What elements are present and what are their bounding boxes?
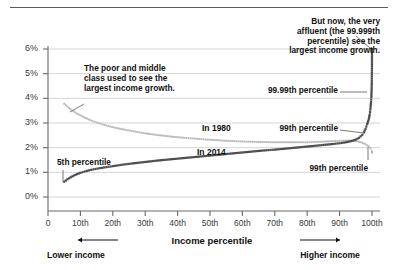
annotation-very-affluent: But now, the very affluent (the 99.999th… [232, 17, 380, 56]
y-tick-label: 5% [12, 68, 38, 79]
x-tick-label: 50th [193, 218, 227, 228]
x-tick-label: 30th [128, 218, 162, 228]
x-axis-ticks [48, 211, 372, 216]
lower-income-label: Lower income [36, 250, 116, 260]
annotation-99th-percentile-upper: 99th percentile [256, 124, 338, 134]
x-tick-label: 10th [63, 218, 97, 228]
x-tick-label: 100th [355, 218, 389, 228]
annotation-poor-middle: The poor and middle class used to see th… [84, 64, 204, 93]
y-tick-label: 3% [12, 117, 38, 128]
x-axis-title: Income percentile [152, 235, 272, 246]
higher-income-label: Higher income [290, 250, 370, 260]
y-tick-label: 6% [12, 43, 38, 54]
y-tick-label: 2% [12, 142, 38, 153]
chart-figure: 0%1%2%3%4%5%6% 010th20th30th40th50th60th… [0, 0, 398, 270]
y-tick-label: 4% [12, 92, 38, 103]
x-tick-label: 20th [96, 218, 130, 228]
y-tick-label: 0% [12, 191, 38, 202]
x-tick-label: 80th [290, 218, 324, 228]
y-tick-label: 1% [12, 166, 38, 177]
annotation-9999th-percentile: 99.99th percentile [243, 86, 338, 96]
series-label-2014: In 2014 [197, 147, 226, 157]
y-axis-ticks [43, 49, 48, 197]
x-tick-label: 90th [323, 218, 357, 228]
x-tick-label: 60th [225, 218, 259, 228]
annotation-5th-percentile: 5th percentile [57, 158, 137, 168]
x-tick-label: 40th [161, 218, 195, 228]
series-label-1980: In 1980 [202, 123, 231, 133]
x-tick-label: 70th [258, 218, 292, 228]
x-tick-label: 0 [31, 218, 65, 228]
annotation-99th-percentile-lower: 99th percentile [286, 164, 368, 174]
